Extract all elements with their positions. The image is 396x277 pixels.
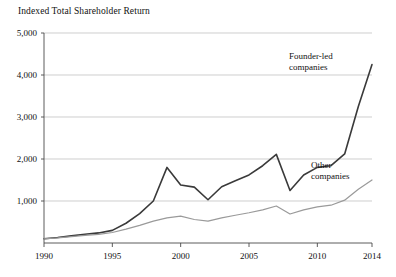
y-tick-label: 1,000	[17, 196, 38, 206]
annotation-other-line2: companies	[311, 171, 350, 181]
x-tick-label: 1995	[103, 251, 122, 261]
series-line-founder-led-companies	[44, 65, 372, 239]
annotation-founder-led: Founder-led companies	[289, 51, 333, 72]
y-axis-labels: 1,0002,0003,0004,0005,000	[17, 28, 38, 206]
y-tick-label: 4,000	[17, 70, 38, 80]
y-tick-label: 3,000	[17, 112, 38, 122]
x-axis-labels: 199019952000200520102014	[35, 251, 382, 261]
x-axis-ticks	[44, 243, 372, 247]
x-tick-label: 2005	[240, 251, 259, 261]
data-series-lines	[44, 65, 372, 239]
y-tick-label: 2,000	[17, 154, 38, 164]
x-tick-label: 2014	[363, 251, 382, 261]
chart-container: Indexed Total Shareholder Return 1,0002,…	[0, 0, 396, 277]
annotation-other-line1: Other	[311, 160, 332, 170]
x-tick-label: 2000	[172, 251, 191, 261]
x-tick-label: 2010	[308, 251, 327, 261]
series-line-other-companies	[44, 180, 372, 239]
annotation-founder-led-line1: Founder-led	[289, 51, 333, 61]
x-tick-label: 1990	[35, 251, 54, 261]
annotation-founder-led-line2: companies	[289, 62, 328, 72]
y-tick-label: 5,000	[17, 28, 38, 38]
annotation-other-companies: Other companies	[311, 160, 350, 181]
chart-plot-area: 1,0002,0003,0004,0005,000 19901995200020…	[0, 0, 396, 277]
